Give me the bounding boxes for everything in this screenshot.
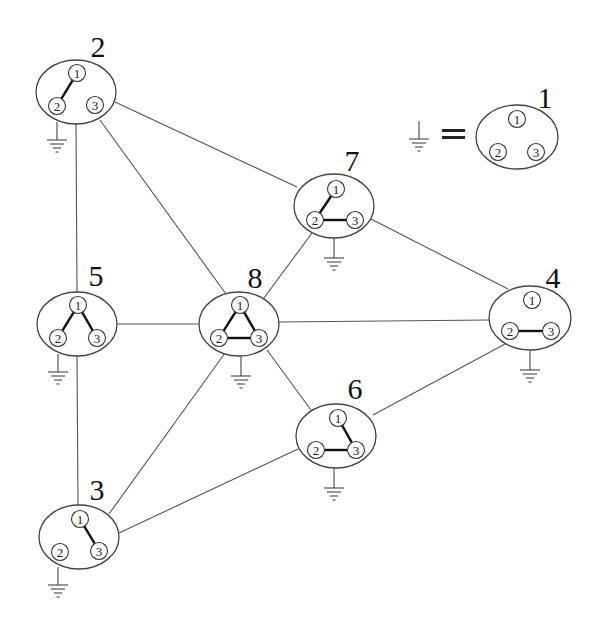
port-2: 2 — [308, 442, 325, 459]
node-label: 4 — [546, 261, 561, 294]
port-label: 2 — [507, 324, 514, 339]
port-1: 1 — [330, 410, 347, 427]
port-3: 3 — [543, 323, 560, 340]
node-3: 1233 — [39, 473, 119, 597]
port-label: 3 — [533, 145, 540, 160]
port-3: 3 — [528, 144, 545, 161]
node-label: 7 — [345, 144, 360, 177]
legend: 1231 — [409, 81, 558, 169]
port-label: 1 — [333, 182, 340, 197]
port-1: 1 — [509, 111, 526, 128]
port-label: 2 — [216, 331, 223, 346]
edge-2-7 — [115, 102, 297, 187]
port-2: 2 — [50, 330, 67, 347]
diagram-canvas: 1232123712351238123412361233 1231 — [0, 0, 596, 623]
port-3: 3 — [89, 330, 106, 347]
port-label: 2 — [55, 331, 62, 346]
port-label: 1 — [237, 298, 244, 313]
node-7: 1237 — [294, 144, 374, 270]
node-label: 2 — [91, 30, 106, 63]
port-label: 3 — [352, 213, 359, 228]
port-label: 3 — [548, 324, 555, 339]
node-6: 1236 — [296, 372, 376, 500]
edge-8-6 — [267, 350, 311, 410]
node-8: 1238 — [199, 261, 279, 388]
ground-icon — [48, 567, 68, 597]
port-2: 2 — [490, 144, 507, 161]
ground-icon — [48, 354, 68, 384]
port-2: 2 — [52, 544, 69, 561]
ground-icon — [520, 350, 540, 382]
edge-5-3 — [77, 356, 78, 505]
port-label: 2 — [312, 213, 319, 228]
network-diagram: 1232123712351238123412361233 1231 — [0, 0, 596, 623]
port-3: 3 — [251, 330, 268, 347]
ground-icon — [324, 238, 344, 270]
port-label: 2 — [495, 145, 502, 160]
node-label: 8 — [248, 261, 263, 294]
ground-icon — [231, 356, 251, 388]
port-1: 1 — [328, 181, 345, 198]
port-label: 1 — [529, 293, 536, 308]
port-label: 3 — [96, 544, 103, 559]
port-label: 3 — [94, 331, 101, 346]
edges-layer — [76, 102, 508, 533]
port-label: 1 — [514, 112, 521, 127]
port-3: 3 — [87, 97, 104, 114]
edge-8-4 — [279, 320, 489, 322]
node-label: 1 — [538, 81, 553, 114]
port-3: 3 — [348, 442, 365, 459]
port-1: 1 — [72, 511, 89, 528]
port-1: 1 — [524, 292, 541, 309]
port-label: 3 — [256, 331, 263, 346]
port-label: 2 — [57, 545, 64, 560]
node-label: 5 — [89, 259, 104, 292]
port-2: 2 — [211, 330, 228, 347]
port-1: 1 — [232, 297, 249, 314]
port-label: 1 — [74, 66, 81, 81]
ground-icon — [47, 122, 67, 152]
node-label: 6 — [348, 372, 363, 405]
equals-sign — [442, 131, 465, 138]
port-label: 1 — [77, 512, 84, 527]
edge-2-5 — [76, 124, 77, 292]
edge-8-3 — [109, 353, 225, 514]
edge-6-3 — [119, 449, 298, 533]
port-3: 3 — [347, 212, 364, 229]
edge-7-4 — [371, 219, 508, 289]
port-label: 2 — [313, 443, 320, 458]
port-label: 1 — [75, 298, 82, 313]
port-1: 1 — [70, 297, 87, 314]
port-2: 2 — [502, 323, 519, 340]
edge-4-6 — [373, 344, 505, 415]
edge-8-7 — [264, 233, 312, 298]
node-label: 3 — [90, 473, 105, 506]
port-label: 3 — [92, 98, 99, 113]
edge-2-8 — [100, 120, 226, 294]
port-2: 2 — [49, 98, 66, 115]
port-1: 1 — [69, 65, 86, 82]
ground-icon — [409, 121, 429, 151]
node-1: 1231 — [476, 81, 558, 169]
port-label: 3 — [353, 443, 360, 458]
port-label: 2 — [54, 99, 61, 114]
node-4: 1234 — [489, 261, 571, 382]
ground-icon — [324, 468, 344, 500]
port-3: 3 — [91, 543, 108, 560]
port-2: 2 — [307, 212, 324, 229]
port-label: 1 — [335, 411, 342, 426]
